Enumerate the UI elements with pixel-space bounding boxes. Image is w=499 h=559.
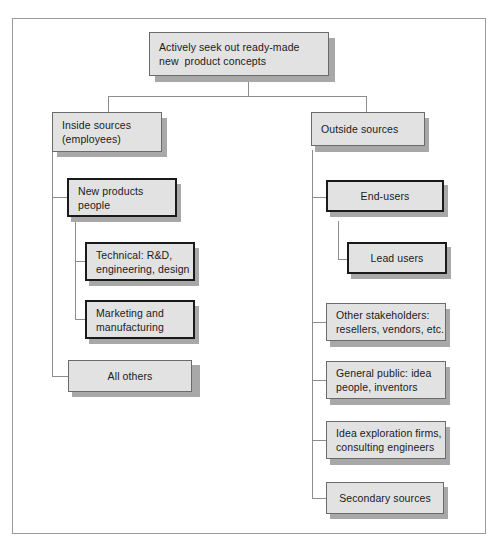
connector-stub-all-others bbox=[52, 376, 68, 377]
node-general-public-line2: people, inventors bbox=[336, 380, 436, 394]
node-technical-rd-line2: engineering, design bbox=[96, 262, 184, 276]
connector-to-outside-sources bbox=[366, 96, 367, 113]
node-idea-exploration-firms[interactable]: Idea exploration firms, consulting engin… bbox=[326, 421, 446, 459]
node-new-products-people-line2: people bbox=[78, 198, 166, 212]
connector-stub-end-users bbox=[312, 197, 326, 198]
node-all-others-line1: All others bbox=[108, 369, 153, 383]
connector-stub-other-stakeholders bbox=[312, 322, 326, 323]
diagram-canvas: Actively seek out ready-made new product… bbox=[0, 0, 499, 559]
connector-to-inside-sources bbox=[108, 96, 109, 113]
node-secondary-sources-line1: Secondary sources bbox=[339, 491, 431, 505]
connector-stub-idea-exploration bbox=[312, 440, 326, 441]
node-marketing-manufacturing-line2: manufacturing bbox=[96, 320, 184, 334]
connector-inside-trunk bbox=[52, 152, 53, 376]
node-inside-sources-line1: Inside sources bbox=[62, 118, 152, 132]
node-other-stakeholders[interactable]: Other stakeholders: resellers, vendors, … bbox=[326, 303, 446, 341]
node-root-line1: Actively seek out ready-made bbox=[159, 40, 319, 54]
node-lead-users[interactable]: Lead users bbox=[347, 242, 447, 274]
node-outside-sources-line1: Outside sources bbox=[321, 122, 415, 136]
connector-outside-trunk bbox=[312, 150, 313, 498]
node-marketing-manufacturing[interactable]: Marketing and manufacturing bbox=[85, 300, 195, 339]
connector-stub-lead-users bbox=[338, 259, 347, 260]
node-outside-sources[interactable]: Outside sources bbox=[311, 112, 425, 146]
node-other-stakeholders-line1: Other stakeholders: bbox=[336, 308, 436, 322]
connector-inside-trunk-top bbox=[52, 152, 53, 153]
node-inside-sources[interactable]: Inside sources (employees) bbox=[52, 112, 162, 152]
connector-stub-new-products-people bbox=[52, 197, 68, 198]
connector-stub-general-public bbox=[312, 380, 326, 381]
node-idea-exploration-firms-line2: consulting engineers bbox=[336, 440, 436, 454]
connector-stub-secondary-sources bbox=[312, 498, 326, 499]
connector-root-spine bbox=[108, 96, 367, 97]
node-technical-rd-line1: Technical: R&D, bbox=[96, 248, 184, 262]
node-lead-users-line1: Lead users bbox=[371, 251, 424, 265]
node-all-others[interactable]: All others bbox=[68, 360, 192, 392]
node-root[interactable]: Actively seek out ready-made new product… bbox=[149, 32, 329, 76]
connector-end-users-to-lead-users bbox=[338, 221, 339, 259]
node-general-public[interactable]: General public: idea people, inventors bbox=[326, 361, 446, 399]
connector-new-products-subtrunk bbox=[75, 221, 76, 319]
node-other-stakeholders-line2: resellers, vendors, etc. bbox=[336, 322, 436, 336]
node-new-products-people-line1: New products bbox=[78, 184, 166, 198]
node-technical-rd[interactable]: Technical: R&D, engineering, design bbox=[85, 242, 195, 281]
node-marketing-manufacturing-line1: Marketing and bbox=[96, 306, 184, 320]
node-secondary-sources[interactable]: Secondary sources bbox=[326, 482, 444, 514]
node-idea-exploration-firms-line1: Idea exploration firms, bbox=[336, 426, 436, 440]
node-root-line2: new product concepts bbox=[159, 54, 319, 68]
node-end-users-line1: End-users bbox=[361, 189, 410, 203]
node-new-products-people[interactable]: New products people bbox=[67, 178, 177, 217]
node-end-users[interactable]: End-users bbox=[326, 180, 444, 212]
node-inside-sources-line2: (employees) bbox=[62, 132, 152, 146]
node-general-public-line1: General public: idea bbox=[336, 366, 436, 380]
